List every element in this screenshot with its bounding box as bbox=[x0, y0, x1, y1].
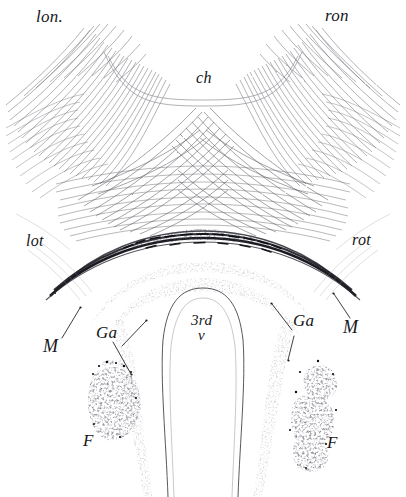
figure-plate: lon. ron ch lot rot 3rd v Ga Ga M M F F bbox=[0, 0, 406, 497]
label-right-optic-nerve: ron bbox=[325, 7, 349, 24]
label-third-ventricle: 3rd v bbox=[191, 313, 212, 344]
label-third-ventricle-line2: v bbox=[191, 328, 212, 343]
label-f-left: F bbox=[83, 432, 94, 449]
label-f-right: F bbox=[327, 434, 338, 451]
label-ganglion-right: Ga bbox=[293, 312, 314, 329]
label-m-right: M bbox=[343, 318, 358, 336]
label-left-optic-tract: lot bbox=[26, 233, 44, 249]
label-chiasm: ch bbox=[196, 70, 212, 86]
label-left-optic-nerve: lon. bbox=[36, 8, 63, 25]
label-right-optic-tract: rot bbox=[352, 232, 371, 248]
label-third-ventricle-line1: 3rd bbox=[191, 312, 212, 328]
label-ganglion-left: Ga bbox=[96, 324, 117, 341]
label-m-left: M bbox=[43, 337, 58, 355]
